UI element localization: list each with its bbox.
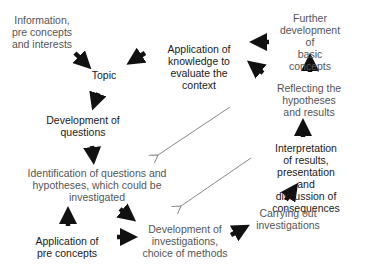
node-information: Information, pre concepts and interests xyxy=(12,14,72,50)
node-reflecting: Reflecting the hypotheses and results xyxy=(275,82,344,118)
node-application-of-preconcepts: Application of pre concepts xyxy=(35,235,98,259)
node-development-of-questions: Development of questions xyxy=(46,114,120,138)
node-interpretation: Interpretation of results, presentation … xyxy=(270,142,342,214)
arrow-questions-to-identification xyxy=(92,146,93,156)
node-carrying-out: Carrying out investigations xyxy=(256,207,320,231)
thin-arrow-interpretation-to-investigations xyxy=(181,158,251,206)
node-identification: Identification of questions and hypothes… xyxy=(28,167,167,203)
arrow-reflecting-to-knowledge xyxy=(254,66,263,73)
arrow-identification-to-investigations xyxy=(120,209,129,216)
process-diagram: Information, pre concepts and interests … xyxy=(0,0,378,267)
arrow-investigations-to-carrying-out xyxy=(231,229,242,235)
thin-arrow-reflecting-to-identification xyxy=(158,107,230,155)
node-development-of-investigations: Development of investigations, choice of… xyxy=(142,223,227,259)
arrow-topic-to-questions xyxy=(95,93,98,102)
node-application-of-knowledge: Application of knowledge to evaluate the… xyxy=(167,43,230,91)
arrow-knowledge-to-topic xyxy=(134,53,145,60)
arrow-information-to-topic xyxy=(75,53,85,63)
node-further-development: Further development of basic concepts xyxy=(276,12,344,72)
node-topic: Topic xyxy=(92,69,117,81)
